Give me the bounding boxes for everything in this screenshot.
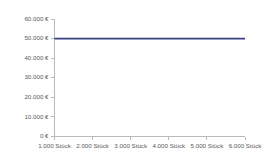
x-axis-ticks (55, 137, 246, 141)
x-tick-label: 5.000 Stück (191, 142, 225, 149)
x-tick-label: 2.000 Stück (76, 142, 110, 149)
y-tick-label: 30.000 € (24, 73, 49, 80)
line-chart: 0 €10.000 €20.000 €30.000 €40.000 €50.00… (0, 0, 276, 156)
y-tick-label: 50.000 € (24, 34, 49, 41)
x-tick-label: 1.000 Stück (38, 142, 72, 149)
chart-canvas: 0 €10.000 €20.000 €30.000 €40.000 €50.00… (0, 0, 276, 156)
y-tick-label: 10.000 € (24, 113, 49, 120)
y-axis-ticks (51, 19, 55, 137)
x-tick-label: 6.000 Stück (229, 142, 263, 149)
x-axis-group: 1.000 Stück2.000 Stück3.000 Stück4.000 S… (38, 137, 262, 150)
x-axis-tick-labels: 1.000 Stück2.000 Stück3.000 Stück4.000 S… (38, 142, 262, 149)
y-tick-label: 0 € (40, 132, 49, 139)
x-tick-label: 3.000 Stück (114, 142, 148, 149)
y-axis-group: 0 €10.000 €20.000 €30.000 €40.000 €50.00… (24, 15, 54, 140)
y-tick-label: 40.000 € (24, 54, 49, 61)
y-axis-tick-labels: 0 €10.000 €20.000 €30.000 €40.000 €50.00… (24, 15, 49, 140)
x-tick-label: 4.000 Stück (152, 142, 186, 149)
y-tick-label: 20.000 € (24, 93, 49, 100)
y-tick-label: 60.000 € (24, 15, 49, 22)
